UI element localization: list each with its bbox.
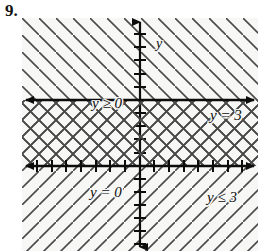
region-label-y-ge-0: y ≥ 0 [92,96,122,111]
y-axis-label: y [156,37,162,51]
textbook-figure: 9. [0,0,258,251]
region-label-y-le-3: y ≤ 3 [207,190,237,205]
coordinate-plane: y x y ≥ 0 y = 3 y = 0 y ≤ 3 [22,18,258,251]
boundary-label-y-eq-0: y = 0 [90,185,122,200]
axes-layer [22,18,258,251]
problem-number: 9. [5,2,18,19]
boundary-label-y-eq-3: y = 3 [210,108,242,123]
